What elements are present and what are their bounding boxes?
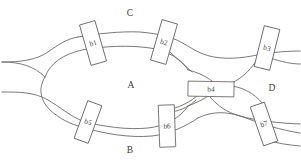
network-line bbox=[2, 37, 78, 62]
network-line bbox=[170, 52, 192, 72]
bridge-label: b4 bbox=[207, 84, 215, 93]
network-line bbox=[172, 100, 196, 112]
bridge-b3[interactable]: b3 bbox=[254, 26, 280, 71]
bridge-b6[interactable]: b6 bbox=[158, 105, 175, 148]
network-line bbox=[270, 58, 300, 64]
network-line bbox=[41, 77, 82, 127]
region-label-b: B bbox=[127, 145, 134, 155]
region-label-a: A bbox=[127, 80, 134, 90]
bridge-label: b6 bbox=[163, 121, 171, 130]
region-label-c: C bbox=[127, 8, 134, 18]
region-label-d: D bbox=[268, 83, 275, 93]
bridge-boxes-group: b1b2b3b4b5b6b7 bbox=[74, 20, 280, 148]
bridge-b2[interactable]: b2 bbox=[151, 20, 178, 65]
network-lines-group bbox=[2, 32, 300, 146]
bridge-b1[interactable]: b1 bbox=[80, 21, 107, 66]
network-line bbox=[172, 38, 262, 58]
network-line bbox=[2, 62, 45, 77]
bridge-b7[interactable]: b7 bbox=[250, 102, 278, 146]
bridge-b4[interactable]: b4 bbox=[188, 81, 234, 97]
diagram-canvas: b1b2b3b4b5b6b7 bbox=[0, 0, 301, 166]
network-diagram-figure: b1b2b3b4b5b6b7 CADB bbox=[0, 0, 301, 166]
bridge-b5[interactable]: b5 bbox=[74, 101, 102, 144]
network-line bbox=[82, 118, 198, 137]
network-line bbox=[232, 58, 258, 83]
